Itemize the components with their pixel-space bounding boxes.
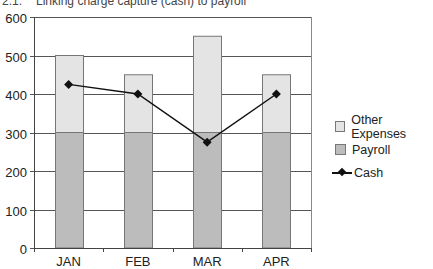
- legend-item-cash: Cash: [332, 161, 433, 184]
- bar-other-expenses: [125, 75, 153, 133]
- y-tick-label: 300: [5, 127, 27, 142]
- x-tick-label: MAR: [193, 254, 222, 269]
- y-tick-label: 500: [5, 50, 27, 65]
- y-tick-label: 0: [20, 242, 27, 257]
- bar-other-expenses: [56, 56, 84, 133]
- legend-item-other-expenses: Other Expenses: [332, 115, 433, 138]
- x-tick-label: APR: [263, 254, 290, 269]
- bar-other-expenses: [263, 75, 291, 133]
- bar-other-expenses: [194, 36, 222, 132]
- y-tick-label: 100: [5, 204, 27, 219]
- x-tick-label: FEB: [125, 254, 150, 269]
- payroll-swatch-icon: [335, 144, 346, 155]
- bar-payroll: [56, 133, 84, 249]
- y-tick-label: 200: [5, 165, 27, 180]
- y-tick-label: 600: [5, 11, 27, 26]
- bar-payroll: [125, 133, 153, 249]
- bar-payroll: [194, 133, 222, 249]
- legend-item-payroll: Payroll: [332, 138, 433, 161]
- legend-label: Payroll: [352, 143, 390, 157]
- y-tick-label: 400: [5, 88, 27, 103]
- legend-label: Cash: [354, 166, 383, 180]
- bar-payroll: [263, 133, 291, 249]
- legend-label: Other Expenses: [351, 113, 433, 141]
- x-tick-label: JAN: [56, 254, 81, 269]
- chart-legend: Other Expenses Payroll Cash: [332, 115, 433, 184]
- cash-line-marker-icon: [332, 167, 352, 178]
- other-expenses-swatch-icon: [335, 121, 345, 132]
